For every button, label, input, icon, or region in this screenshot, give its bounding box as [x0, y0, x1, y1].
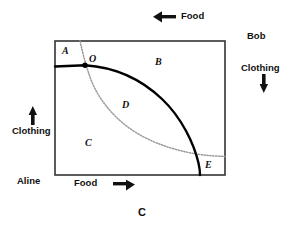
right-axis-label-clothing: Clothing [241, 63, 280, 73]
right-clothing-arrow-icon [260, 74, 268, 93]
point-label-e: E [205, 160, 212, 170]
left-axis-label-clothing: Clothing [12, 126, 51, 136]
point-label-o: O [89, 54, 96, 64]
point-o-marker [82, 62, 87, 67]
bottom-food-arrow-icon [113, 180, 135, 191]
region-label-a: A [62, 46, 69, 56]
agent-label-aline: Aline [17, 176, 40, 186]
figure-canvas: Food Bob Clothing Clothing Aline Food A … [0, 0, 292, 227]
top-food-arrow-icon [153, 11, 176, 22]
figure-caption: C [138, 207, 146, 218]
top-axis-label-food: Food [181, 11, 204, 21]
left-clothing-arrow-icon [29, 106, 37, 125]
region-label-d: D [122, 100, 129, 110]
bottom-axis-label-food: Food [74, 178, 97, 188]
agent-label-bob: Bob [247, 31, 265, 41]
region-label-b: B [155, 57, 162, 67]
region-label-c: C [85, 138, 92, 148]
